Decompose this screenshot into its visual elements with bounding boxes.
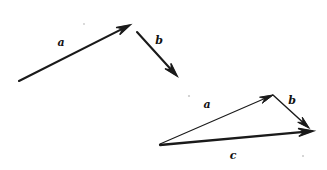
vector-a-triangle-label: a — [203, 98, 210, 111]
vector-c-resultant-shaft — [160, 132, 307, 145]
figure-canvas: Vector addition diagram Hand-drawn vecto… — [0, 0, 327, 170]
vector-diagram-svg: Vector addition diagram Hand-drawn vecto… — [0, 0, 327, 170]
paper-speck-1 — [188, 95, 190, 97]
vector-b-given-label: b — [155, 34, 163, 47]
paper-speck-3 — [302, 155, 304, 157]
paper-speck-layer — [83, 23, 304, 157]
vector-b-triangle-label: b — [288, 94, 296, 107]
paper-speck-2 — [83, 23, 85, 25]
vector-a-given-shaft — [19, 28, 125, 81]
vector-a-given-label: a — [57, 36, 64, 49]
vector-c-resultant-label: c — [230, 149, 237, 162]
given-vectors — [19, 25, 177, 81]
